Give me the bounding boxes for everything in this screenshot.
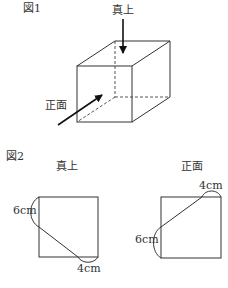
figure1-label: 図1 [23, 3, 41, 15]
arrow-front-label: 正面 [45, 100, 67, 112]
front-view-top-measure: 4cm [199, 180, 223, 192]
top-view-title: 真上 [56, 161, 78, 173]
top-view-side-measure: 6cm [13, 205, 37, 217]
figure2-label: 図2 [6, 151, 24, 163]
front-view-side-measure: 6cm [135, 234, 159, 246]
front-view [154, 191, 222, 258]
diagram-canvas [0, 0, 228, 288]
top-view-bottom-measure: 4cm [77, 263, 101, 275]
cube-front-face [77, 66, 132, 122]
cube-hidden-edges [77, 41, 170, 122]
front-view-title: 正面 [181, 161, 203, 173]
cube-figure [77, 41, 170, 122]
top-view [31, 197, 98, 262]
arrow-top-label: 真上 [112, 5, 134, 17]
